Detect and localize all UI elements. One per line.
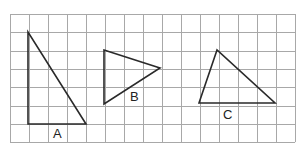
triangle-c: C: [199, 50, 275, 122]
grid-diagram: ABC: [0, 0, 305, 145]
triangle-b-label: B: [130, 89, 139, 104]
triangle-a-label: A: [53, 126, 62, 141]
triangle-a: A: [28, 32, 86, 141]
triangle-a-outline: [28, 32, 86, 124]
triangle-c-outline: [199, 50, 275, 103]
triangle-c-label: C: [223, 107, 232, 122]
triangle-b: B: [104, 50, 160, 104]
